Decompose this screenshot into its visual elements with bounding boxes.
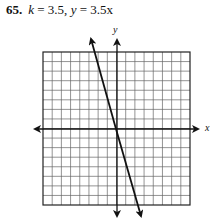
y-axis-label: y (113, 24, 117, 35)
coordinate-plane (0, 0, 224, 224)
plotted-line-down (116, 129, 141, 216)
x-axis-label: x (205, 122, 209, 133)
